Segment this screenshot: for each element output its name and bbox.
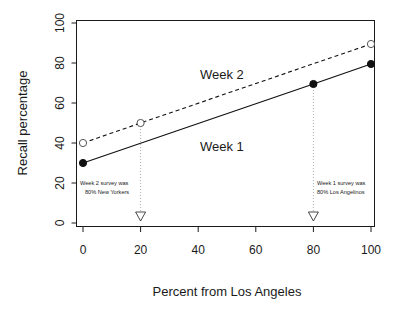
week2-annotation-line2: 80% New Yorkers xyxy=(85,189,129,195)
y-tick-label: 60 xyxy=(53,96,67,110)
y-axis-tick-labels: 0 20 40 60 80 100 xyxy=(53,13,67,227)
data-point xyxy=(79,159,86,166)
week1-annotation-line2: 80% Los Angelinos xyxy=(317,189,365,195)
y-axis-ticks xyxy=(72,23,77,223)
x-tick-label: 20 xyxy=(134,243,148,257)
y-tick-label: 0 xyxy=(53,219,67,226)
data-point xyxy=(310,80,317,87)
x-axis-ticks xyxy=(83,227,371,232)
down-triangle-icon xyxy=(308,212,318,221)
y-tick-label: 20 xyxy=(53,176,67,190)
x-axis-title: Percent from Los Angeles xyxy=(153,284,302,299)
x-tick-label: 100 xyxy=(361,243,381,257)
week-2-line xyxy=(83,44,371,143)
plot-frame xyxy=(77,21,375,227)
series-label-week-1: Week 1 xyxy=(200,139,244,154)
down-triangle-icon xyxy=(136,212,146,221)
series-label-week-2: Week 2 xyxy=(200,67,244,82)
y-tick-label: 80 xyxy=(53,56,67,70)
week1-annotation-line1: Week 1 survey was xyxy=(317,180,366,186)
recall-percentage-line-chart: 0 20 40 60 80 100 Recall percentage 0 20… xyxy=(0,0,398,315)
week1-annotation: Week 1 survey was 80% Los Angelinos xyxy=(317,180,366,195)
x-tick-label: 60 xyxy=(249,243,263,257)
data-point xyxy=(367,60,374,67)
week2-annotation: Week 2 survey was 80% New Yorkers xyxy=(80,180,129,195)
y-tick-label: 40 xyxy=(53,136,67,150)
y-tick-label: 100 xyxy=(53,13,67,33)
x-tick-label: 80 xyxy=(307,243,321,257)
x-axis-tick-labels: 0 20 40 60 80 100 xyxy=(80,243,382,257)
y-axis-title: Recall percentage xyxy=(15,71,30,176)
data-point xyxy=(79,139,86,146)
week2-annotation-line1: Week 2 survey was xyxy=(80,180,129,186)
chart-figure: 0 20 40 60 80 100 Recall percentage 0 20… xyxy=(0,0,398,315)
data-point xyxy=(367,40,374,47)
series-week-2 xyxy=(79,40,374,146)
data-point xyxy=(137,119,144,126)
x-tick-label: 0 xyxy=(80,243,87,257)
x-tick-label: 40 xyxy=(192,243,206,257)
